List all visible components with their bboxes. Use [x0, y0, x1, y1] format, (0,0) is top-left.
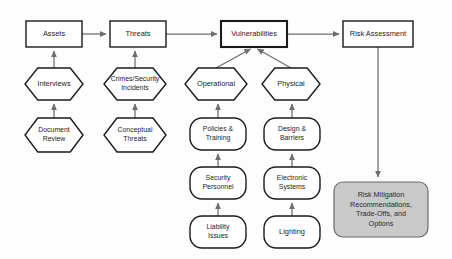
nodes-layer: AssetsThreatsVulnerabilitiesRisk Assessm… [25, 21, 428, 248]
node-label-design-barriers: Design & [278, 125, 306, 133]
connector-operational-to-vulnerabilities [216, 49, 250, 68]
node-label-security-personnel: Personnel [202, 183, 233, 190]
node-label-security-personnel: Security [206, 174, 231, 182]
node-label-risk-mitigation: Risk Mitigation [358, 190, 405, 199]
node-lighting: Lighting [264, 216, 320, 248]
node-label-design-barriers: Barriers [280, 134, 305, 141]
node-label-crimes-security-incidents: Crimes/Security [111, 75, 160, 83]
flowchart-svg: AssetsThreatsVulnerabilitiesRisk Assessm… [0, 0, 452, 259]
node-risk-mitigation: Risk MitigationRecommendations,Trade-Off… [334, 182, 428, 237]
node-security-personnel: SecurityPersonnel [190, 167, 246, 199]
node-threats: Threats [110, 21, 166, 47]
node-conceptual-threats: ConceptualThreats [104, 118, 166, 152]
node-label-risk-assessment: Risk Assessment [350, 29, 406, 38]
node-label-physical: Physical [277, 79, 305, 88]
node-label-document-review: Document [38, 126, 69, 133]
node-label-vulnerabilities: Vulnerabilities [231, 29, 277, 38]
node-label-risk-mitigation: Trade-Offs, and [356, 209, 406, 218]
node-label-electronic-systems: Systems [279, 183, 306, 191]
node-operational: Operational [185, 68, 247, 100]
node-label-lighting: Lighting [279, 227, 305, 236]
connector-physical-to-vulnerabilities [257, 49, 291, 68]
node-label-risk-mitigation: Recommendations, [350, 200, 412, 209]
flowchart-canvas: AssetsThreatsVulnerabilitiesRisk Assessm… [0, 0, 452, 259]
node-policies-training: Policies &Training [190, 118, 246, 150]
node-document-review: DocumentReview [25, 118, 83, 152]
node-interviews: Interviews [25, 68, 83, 100]
node-label-policies-training: Training [206, 134, 231, 142]
node-physical: Physical [262, 68, 320, 100]
node-label-liability-issues: Liability [207, 223, 231, 231]
node-label-threats: Threats [125, 29, 150, 38]
node-crimes-security-incidents: Crimes/SecurityIncidents [104, 68, 166, 100]
node-vulnerabilities: Vulnerabilities [221, 21, 287, 47]
node-electronic-systems: ElectronicSystems [264, 167, 320, 199]
node-design-barriers: Design &Barriers [264, 118, 320, 150]
node-assets: Assets [26, 21, 82, 47]
node-label-conceptual-threats: Conceptual [118, 126, 153, 134]
node-label-risk-mitigation: Options [369, 219, 394, 228]
node-label-assets: Assets [43, 29, 65, 38]
node-label-operational: Operational [197, 79, 236, 88]
node-label-crimes-security-incidents: Incidents [121, 84, 149, 91]
node-label-policies-training: Policies & [203, 125, 234, 132]
node-label-interviews: Interviews [37, 79, 71, 88]
node-label-electronic-systems: Electronic [277, 174, 308, 181]
node-label-document-review: Review [43, 135, 66, 142]
node-label-conceptual-threats: Threats [123, 135, 147, 142]
node-liability-issues: LiabilityIssues [190, 216, 246, 248]
node-label-liability-issues: Issues [208, 232, 228, 239]
node-risk-assessment: Risk Assessment [343, 21, 413, 47]
